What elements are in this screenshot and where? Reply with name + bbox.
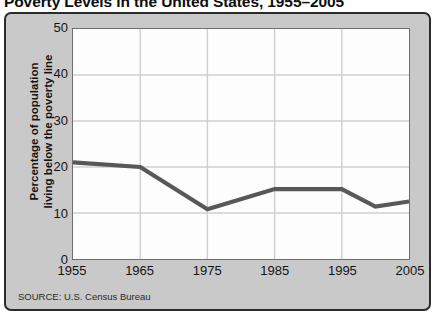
chart-title-clip: Poverty Levels in the United States, 195… (0, 0, 439, 12)
x-tick-label: 1985 (245, 263, 305, 278)
y-tick-label: 40 (42, 67, 68, 80)
y-tick-label: 20 (42, 160, 68, 173)
y-tick-label: 50 (42, 21, 68, 34)
source-note: SOURCE: U.S. Census Bureau (18, 291, 151, 302)
poverty-levels-chart-figure: Poverty Levels in the United States, 195… (0, 0, 439, 315)
y-axis-title-line-1: Percentage of population (28, 24, 42, 239)
y-tick-label: 10 (42, 207, 68, 220)
gridlines-horizontal (73, 75, 409, 213)
gridlines-vertical (140, 29, 342, 259)
x-tick-label: 1995 (312, 263, 372, 278)
chart-panel: Percentage of population living below th… (4, 12, 431, 311)
x-tick-label: 1975 (177, 263, 237, 278)
page-title: Poverty Levels in the United States, 195… (4, 0, 344, 10)
plot-area (72, 28, 410, 260)
x-axis-tick-labels: 1955 1965 1975 1985 1995 2005 (72, 263, 410, 283)
x-tick-label: 1955 (42, 263, 102, 278)
data-series-line (73, 162, 409, 209)
chart-svg (73, 29, 409, 259)
x-tick-label: 2005 (380, 263, 439, 278)
y-tick-label: 30 (42, 114, 68, 127)
y-axis-tick-labels: 50 40 30 20 10 0 (42, 28, 68, 260)
x-tick-label: 1965 (110, 263, 170, 278)
